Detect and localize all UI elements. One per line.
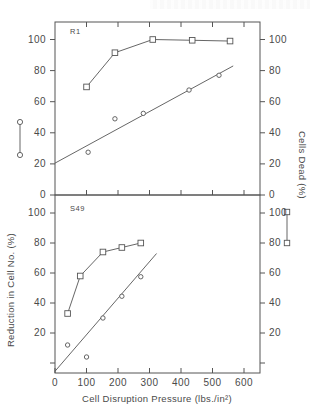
- top-left-tick-20: 20: [34, 158, 46, 169]
- data-point-open-circle: [84, 355, 88, 359]
- bottom-right-tick-80: 80: [269, 237, 281, 248]
- top-right-tick-100: 100: [269, 34, 287, 45]
- y-axis-left-title: Reduction in Cell No. (%): [5, 233, 16, 347]
- x-tick-600: 600: [235, 377, 253, 388]
- x-tick-100: 100: [78, 377, 96, 388]
- top-left-tick-60: 60: [34, 96, 46, 107]
- top-right-tick-60: 60: [269, 96, 281, 107]
- data-point-open-circle: [113, 117, 117, 121]
- data-point-open-circle: [217, 73, 221, 77]
- bottom-panel-frame: [55, 195, 260, 373]
- top-panel: R1: [28, 22, 287, 200]
- top-panel-bottom-ticks: [87, 190, 245, 195]
- data-point-open-square: [189, 37, 195, 43]
- data-point-open-circle: [187, 88, 191, 92]
- x-tick-400: 400: [172, 377, 190, 388]
- bottom-panel: S49 0 100 200 300 400 500 600: [28, 195, 287, 388]
- bottom-right-tick-60: 60: [269, 267, 281, 278]
- bottom-panel-label: S49: [70, 204, 85, 213]
- top-right-tick-0: 0: [269, 189, 275, 200]
- top-right-tick-20: 20: [269, 158, 281, 169]
- data-point-open-square: [119, 245, 125, 251]
- bottom-left-tick-20: 20: [34, 327, 46, 338]
- top-left-tick-0: 0: [40, 189, 46, 200]
- y-axis-right-title: Cells Dead (%): [297, 131, 308, 199]
- legend-left-circle-symbol: [17, 119, 22, 157]
- bottom-right-tick-100: 100: [269, 207, 287, 218]
- top-left-tick-40: 40: [34, 127, 46, 138]
- x-tick-0: 0: [52, 377, 58, 388]
- chart-svg: Reduction in Cell No. (%) Cells Dead (%)…: [0, 0, 310, 414]
- top-panel-plot-area: [55, 37, 233, 163]
- top-panel-label: R1: [70, 27, 81, 36]
- data-point-open-square: [100, 249, 106, 255]
- bottom-left-tick-40: 40: [34, 297, 46, 308]
- top-series-reduction: [55, 66, 233, 163]
- top-right-tick-80: 80: [269, 65, 281, 76]
- data-point-open-square: [138, 240, 144, 246]
- data-point-open-circle: [65, 343, 69, 347]
- data-point-open-circle: [86, 150, 90, 154]
- data-point-open-square: [77, 273, 83, 279]
- data-point-open-circle: [101, 316, 105, 320]
- bottom-panel-left-axis: 100 80 60 40 20: [28, 207, 55, 363]
- data-point-open-square: [65, 311, 71, 317]
- data-point-open-square: [84, 84, 90, 90]
- data-point-open-square: [112, 50, 118, 56]
- bottom-series-cells-dead: [65, 240, 144, 316]
- top-right-tick-40: 40: [269, 127, 281, 138]
- bottom-left-tick-80: 80: [34, 237, 46, 248]
- scan-artifact-strip: [150, 0, 310, 9]
- data-point-open-square: [150, 37, 156, 43]
- top-panel-left-axis: 100 80 60 40 20 0: [28, 34, 55, 200]
- data-point-open-circle: [139, 275, 143, 279]
- bottom-right-tick-40: 40: [269, 297, 281, 308]
- x-tick-300: 300: [141, 377, 159, 388]
- bottom-left-tick-100: 100: [28, 207, 46, 218]
- top-series-cells-dead: [84, 37, 233, 90]
- top-panel-frame: [55, 22, 260, 195]
- figure-root: Reduction in Cell No. (%) Cells Dead (%)…: [0, 0, 310, 414]
- top-left-tick-100: 100: [28, 34, 46, 45]
- bottom-panel-x-ticks: 0 100 200 300 400 500 600: [52, 368, 253, 388]
- top-left-tick-80: 80: [34, 65, 46, 76]
- data-point-open-circle: [141, 111, 145, 115]
- x-tick-500: 500: [204, 377, 222, 388]
- bottom-right-tick-20: 20: [269, 327, 281, 338]
- top-panel-right-axis: 100 80 60 40 20 0: [260, 34, 287, 200]
- data-point-open-circle: [120, 294, 124, 298]
- bottom-panel-plot-area: [55, 240, 157, 371]
- bottom-left-tick-60: 60: [34, 267, 46, 278]
- top-panel-top-ticks: [87, 22, 245, 27]
- bottom-panel-right-axis: 100 80 60 40 20: [260, 207, 287, 363]
- data-point-open-square: [227, 38, 233, 44]
- x-tick-200: 200: [109, 377, 127, 388]
- x-axis-title: Cell Disruption Pressure (lbs./in²): [82, 393, 232, 404]
